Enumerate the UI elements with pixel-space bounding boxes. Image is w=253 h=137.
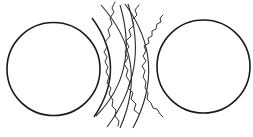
left-body-circle <box>7 23 100 116</box>
wavy-line-1 <box>104 2 119 126</box>
wavefront-arc-3 <box>125 4 149 128</box>
wavy-line-3 <box>142 15 163 117</box>
wavy-line-2 <box>124 5 139 114</box>
diagram-canvas <box>0 0 253 137</box>
right-body-circle <box>157 20 250 113</box>
